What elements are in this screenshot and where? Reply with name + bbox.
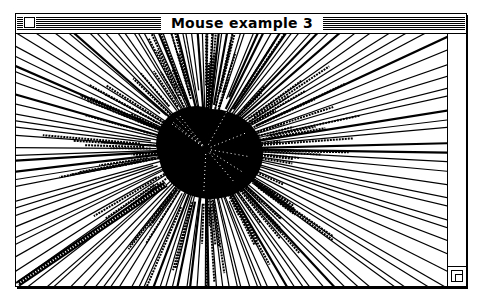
drawing-canvas[interactable] bbox=[16, 34, 447, 286]
title-stripes-right bbox=[323, 17, 465, 30]
window-shadow-bottom bbox=[17, 287, 468, 289]
title-bar[interactable]: Mouse example 3 bbox=[16, 14, 466, 34]
starburst-drawing bbox=[16, 34, 447, 286]
window-shadow-right bbox=[467, 15, 468, 289]
title-stripes-left bbox=[17, 17, 161, 30]
close-box-button[interactable] bbox=[24, 17, 35, 28]
window-title: Mouse example 3 bbox=[161, 15, 323, 32]
vertical-scrollbar[interactable] bbox=[447, 34, 466, 286]
mouse-example-window: Mouse example 3 bbox=[15, 13, 467, 287]
grow-icon bbox=[451, 270, 463, 282]
grow-box-button[interactable] bbox=[447, 266, 466, 286]
